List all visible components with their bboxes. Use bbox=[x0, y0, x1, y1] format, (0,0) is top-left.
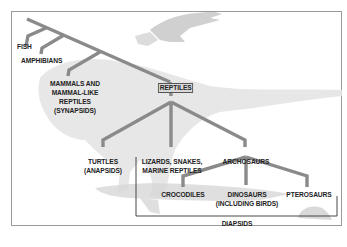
label-amphibians: AMPHIBIANS bbox=[21, 56, 62, 65]
label-synapsids-line2: MAMMAL-LIKE bbox=[44, 88, 107, 97]
label-fish: FISH bbox=[17, 42, 32, 51]
label-pterosaurs: PTEROSAURS bbox=[286, 190, 333, 199]
label-turtles: TURTLES (ANAPSIDS) bbox=[78, 157, 128, 175]
phylogeny-artwork bbox=[0, 0, 347, 247]
label-diapsids: DIAPSIDS bbox=[215, 219, 260, 228]
small-reptile-illustration bbox=[298, 206, 332, 220]
label-archosaurs: ARCHOSAURS bbox=[221, 157, 271, 166]
eagle-illustration bbox=[135, 12, 222, 46]
label-dinosaurs: DINOSAURS (INCLUDING BIRDS) bbox=[216, 190, 279, 208]
label-turtles-line1: TURTLES bbox=[78, 157, 128, 166]
label-turtles-line2: (ANAPSIDS) bbox=[78, 166, 128, 175]
label-synapsids-line1: MAMMALS AND bbox=[44, 79, 107, 88]
label-crocodiles: CROCODILES bbox=[156, 190, 210, 199]
label-synapsids-line3: REPTILES bbox=[44, 97, 107, 106]
label-synapsids-line4: (SYNAPSIDS) bbox=[44, 106, 107, 115]
label-reptiles: REPTILES bbox=[158, 83, 193, 93]
label-lizards-line1: LIZARDS, SNAKES, bbox=[140, 157, 205, 166]
label-lizards-snakes: LIZARDS, SNAKES, MARINE REPTILES bbox=[140, 157, 205, 175]
label-lizards-line2: MARINE REPTILES bbox=[140, 166, 205, 175]
label-synapsids: MAMMALS AND MAMMAL-LIKE REPTILES (SYNAPS… bbox=[44, 79, 107, 115]
label-dinosaurs-line1: DINOSAURS bbox=[216, 190, 279, 199]
label-dinosaurs-line2: (INCLUDING BIRDS) bbox=[216, 199, 279, 208]
